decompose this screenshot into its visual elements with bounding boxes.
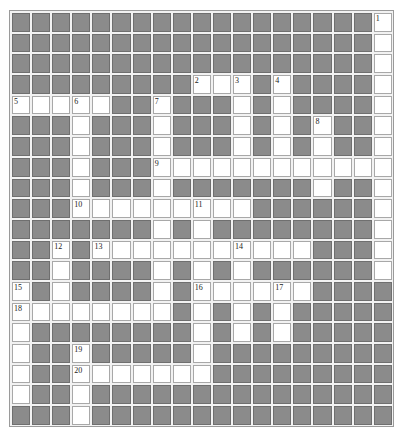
crossword-cell[interactable]: [133, 303, 151, 322]
crossword-cell[interactable]: [213, 75, 231, 94]
crossword-cell[interactable]: 11: [193, 199, 211, 218]
crossword-cell[interactable]: [153, 116, 171, 135]
crossword-cell[interactable]: [374, 96, 392, 115]
crossword-cell[interactable]: [52, 303, 70, 322]
crossword-cell[interactable]: 18: [12, 303, 30, 322]
crossword-cell[interactable]: [374, 116, 392, 135]
crossword-cell[interactable]: [253, 158, 271, 177]
crossword-cell[interactable]: [133, 365, 151, 384]
crossword-cell[interactable]: 19: [72, 344, 90, 363]
crossword-cell[interactable]: [213, 158, 231, 177]
crossword-cell[interactable]: [293, 158, 311, 177]
crossword-cell[interactable]: 17: [273, 282, 291, 301]
crossword-cell[interactable]: [233, 116, 251, 135]
crossword-cell[interactable]: [153, 365, 171, 384]
crossword-cell[interactable]: [72, 158, 90, 177]
crossword-cell[interactable]: 14: [233, 241, 251, 260]
crossword-cell[interactable]: [293, 282, 311, 301]
crossword-cell[interactable]: [374, 137, 392, 156]
crossword-cell[interactable]: [72, 179, 90, 198]
crossword-cell[interactable]: 2: [193, 75, 211, 94]
crossword-cell[interactable]: [32, 96, 50, 115]
crossword-cell[interactable]: [213, 241, 231, 260]
crossword-cell[interactable]: [193, 365, 211, 384]
crossword-cell[interactable]: [233, 261, 251, 280]
crossword-cell[interactable]: [52, 96, 70, 115]
crossword-cell[interactable]: [92, 365, 110, 384]
crossword-cell[interactable]: 10: [72, 199, 90, 218]
crossword-cell[interactable]: [193, 323, 211, 342]
crossword-cell[interactable]: [72, 116, 90, 135]
crossword-cell[interactable]: [153, 137, 171, 156]
crossword-cell[interactable]: [374, 179, 392, 198]
crossword-cell[interactable]: [233, 303, 251, 322]
crossword-cell[interactable]: [334, 158, 352, 177]
crossword-cell[interactable]: [133, 199, 151, 218]
crossword-cell[interactable]: [153, 261, 171, 280]
crossword-cell[interactable]: [313, 179, 331, 198]
crossword-cell[interactable]: [173, 199, 191, 218]
crossword-cell[interactable]: [153, 241, 171, 260]
crossword-cell[interactable]: [374, 54, 392, 73]
crossword-cell[interactable]: [112, 199, 130, 218]
crossword-cell[interactable]: [193, 220, 211, 239]
crossword-cell[interactable]: [12, 365, 30, 384]
crossword-cell[interactable]: 8: [313, 116, 331, 135]
crossword-cell[interactable]: [12, 344, 30, 363]
crossword-cell[interactable]: [253, 282, 271, 301]
crossword-cell[interactable]: 12: [52, 241, 70, 260]
crossword-cell[interactable]: 7: [153, 96, 171, 115]
crossword-cell[interactable]: [233, 158, 251, 177]
crossword-cell[interactable]: [153, 199, 171, 218]
crossword-cell[interactable]: [32, 303, 50, 322]
crossword-cell[interactable]: [72, 406, 90, 425]
crossword-cell[interactable]: [72, 385, 90, 404]
crossword-cell[interactable]: 1: [374, 13, 392, 32]
crossword-cell[interactable]: [313, 137, 331, 156]
crossword-cell[interactable]: 13: [92, 241, 110, 260]
crossword-cell[interactable]: [193, 303, 211, 322]
crossword-cell[interactable]: [273, 96, 291, 115]
crossword-cell[interactable]: [233, 199, 251, 218]
crossword-cell[interactable]: 3: [233, 75, 251, 94]
crossword-cell[interactable]: [374, 75, 392, 94]
crossword-cell[interactable]: [193, 344, 211, 363]
crossword-cell[interactable]: [173, 241, 191, 260]
crossword-cell[interactable]: [153, 220, 171, 239]
crossword-cell[interactable]: [273, 158, 291, 177]
crossword-cell[interactable]: [374, 34, 392, 53]
crossword-cell[interactable]: [193, 158, 211, 177]
crossword-cell[interactable]: [173, 158, 191, 177]
crossword-cell[interactable]: [213, 282, 231, 301]
crossword-cell[interactable]: 20: [72, 365, 90, 384]
crossword-cell[interactable]: 6: [72, 96, 90, 115]
crossword-cell[interactable]: [52, 261, 70, 280]
crossword-cell[interactable]: [273, 137, 291, 156]
crossword-cell[interactable]: [193, 241, 211, 260]
crossword-cell[interactable]: [153, 179, 171, 198]
crossword-cell[interactable]: [374, 261, 392, 280]
crossword-cell[interactable]: [374, 220, 392, 239]
crossword-cell[interactable]: [112, 303, 130, 322]
crossword-cell[interactable]: [233, 323, 251, 342]
crossword-cell[interactable]: [133, 241, 151, 260]
crossword-cell[interactable]: 5: [12, 96, 30, 115]
crossword-cell[interactable]: [12, 323, 30, 342]
crossword-cell[interactable]: [112, 241, 130, 260]
crossword-cell[interactable]: [233, 282, 251, 301]
crossword-cell[interactable]: 9: [153, 158, 171, 177]
crossword-cell[interactable]: [72, 137, 90, 156]
crossword-cell[interactable]: 16: [193, 282, 211, 301]
crossword-cell[interactable]: [273, 116, 291, 135]
crossword-cell[interactable]: [153, 282, 171, 301]
crossword-cell[interactable]: [213, 199, 231, 218]
crossword-cell[interactable]: [273, 303, 291, 322]
crossword-cell[interactable]: [173, 365, 191, 384]
crossword-cell[interactable]: [374, 199, 392, 218]
crossword-cell[interactable]: [153, 303, 171, 322]
crossword-cell[interactable]: [92, 96, 110, 115]
crossword-cell[interactable]: [273, 323, 291, 342]
crossword-cell[interactable]: [92, 199, 110, 218]
crossword-cell[interactable]: [313, 158, 331, 177]
crossword-cell[interactable]: 15: [12, 282, 30, 301]
